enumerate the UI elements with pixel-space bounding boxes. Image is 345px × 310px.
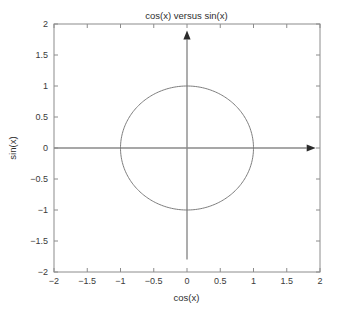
x-tick-label: −1.5 (78, 276, 96, 286)
x-tick-label: 0 (184, 276, 189, 286)
y-tick-label: −0.5 (30, 174, 48, 184)
y-tick-label: 1 (43, 81, 48, 91)
y-axis-label: sin(x) (7, 136, 18, 159)
x-tick-label: 2 (317, 276, 322, 286)
x-tick-label: 1 (251, 276, 256, 286)
x-tick-label: 1.5 (280, 276, 293, 286)
y-tick-label: 0.5 (35, 112, 48, 122)
x-axis-tick-labels: −2−1.5−1−0.500.511.52 (49, 276, 323, 286)
y-tick-label: −2 (38, 267, 48, 277)
x-tick-label: −2 (49, 276, 59, 286)
y-tick-label: 1.5 (35, 50, 48, 60)
chart-title: cos(x) versus sin(x) (145, 10, 227, 21)
y-tick-label: −1 (38, 205, 48, 215)
figure-container: cos(x) versus sin(x) −2−1.5−1−0.500.511.… (0, 0, 345, 310)
figure-background (0, 0, 345, 310)
x-tick-label: 0.5 (214, 276, 227, 286)
y-tick-label: 0 (43, 143, 48, 153)
y-tick-label: −1.5 (30, 236, 48, 246)
x-tick-label: −0.5 (145, 276, 163, 286)
x-tick-label: −1 (115, 276, 125, 286)
x-axis-label: cos(x) (174, 292, 200, 303)
y-tick-label: 2 (43, 19, 48, 29)
chart-canvas: cos(x) versus sin(x) −2−1.5−1−0.500.511.… (0, 0, 345, 310)
